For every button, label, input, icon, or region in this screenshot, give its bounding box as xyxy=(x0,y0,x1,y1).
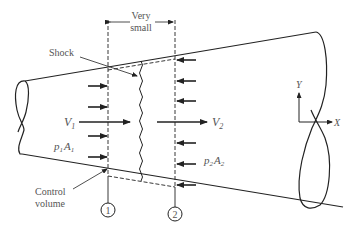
control-volume-label-line1: Control xyxy=(35,186,66,197)
pipe-bottom-wall xyxy=(22,154,343,207)
pipe-left-end xyxy=(16,81,29,154)
x-axis-label: X xyxy=(333,117,341,128)
control-volume-leader xyxy=(73,169,107,189)
p1a1-label: p1A1 xyxy=(53,140,74,154)
y-axis-label: Y xyxy=(296,79,303,90)
station-2-label: 2 xyxy=(173,209,178,220)
very-small-label-line1: Very xyxy=(132,10,151,21)
control-volume xyxy=(108,20,175,187)
coordinate-axes xyxy=(299,93,332,122)
station-1-label: 1 xyxy=(106,205,111,216)
normal-shock-diagram: Very small Shock V1 V2 p1A1 p2A2 Control… xyxy=(0,0,353,236)
very-small-label-line2: small xyxy=(130,22,152,33)
p2a2-label: p2A2 xyxy=(203,154,225,168)
shock-wave xyxy=(140,61,143,181)
pipe-right-end xyxy=(299,32,330,208)
v2-label: V2 xyxy=(212,115,223,131)
control-volume-label-line2: volume xyxy=(35,198,66,209)
v1-label: V1 xyxy=(64,115,75,131)
shock-label: Shock xyxy=(49,47,74,58)
